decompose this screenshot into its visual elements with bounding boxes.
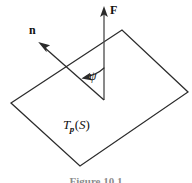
force-vector-label: F — [110, 4, 117, 16]
tangent-plane-label-close-paren: ) — [86, 117, 90, 132]
tangent-plane-label-subscript: p — [70, 124, 75, 134]
angle-label-psi: ψ — [89, 70, 96, 82]
normal-vector-label: n — [29, 24, 36, 36]
figure-caption: Figure 10.1 — [0, 175, 192, 183]
tangent-plane-label: Tp(S) — [63, 118, 90, 131]
figure-container: n F ψ Tp(S) Figure 10.1 — [0, 0, 192, 183]
tangent-plane-parallelogram — [11, 30, 188, 166]
